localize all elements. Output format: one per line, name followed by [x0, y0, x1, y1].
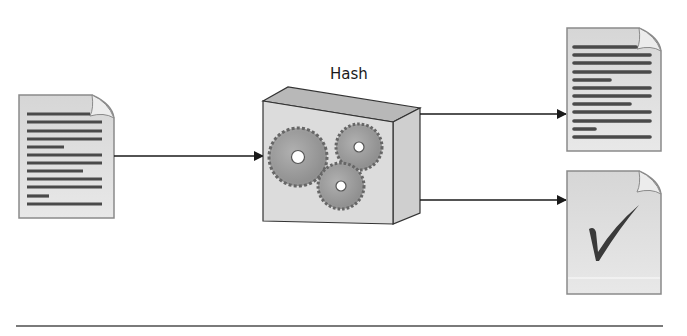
folded-corner [637, 171, 661, 194]
folded-corner [90, 95, 114, 118]
hash-function-box: Hash [263, 65, 420, 224]
gear-bottom [318, 163, 364, 209]
hash-label: Hash [330, 65, 368, 83]
box-side-face [393, 108, 420, 224]
hash-diagram: Hash [0, 0, 687, 336]
input-document [19, 95, 114, 218]
folded-corner [637, 28, 661, 51]
output-document [567, 28, 661, 151]
output-verified [567, 171, 661, 294]
